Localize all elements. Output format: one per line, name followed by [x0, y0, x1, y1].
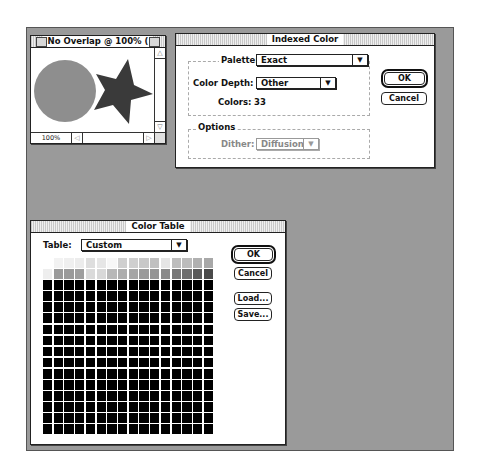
color-swatch[interactable] [182, 424, 191, 434]
color-swatch[interactable] [54, 369, 63, 379]
color-swatch[interactable] [54, 402, 63, 412]
color-swatch[interactable] [43, 402, 52, 412]
color-swatch[interactable] [161, 391, 170, 401]
color-swatch[interactable] [193, 313, 202, 323]
color-swatch[interactable] [161, 369, 170, 379]
color-swatch[interactable] [97, 380, 106, 390]
color-swatch[interactable] [129, 336, 138, 346]
color-swatch[interactable] [118, 391, 127, 401]
close-box-icon[interactable] [36, 37, 47, 47]
color-swatch[interactable] [129, 325, 138, 335]
color-swatch[interactable] [129, 258, 138, 268]
color-swatch[interactable] [64, 424, 73, 434]
color-swatch[interactable] [107, 402, 116, 412]
zoom-box-icon[interactable] [149, 37, 160, 47]
color-swatch[interactable] [129, 413, 138, 423]
color-swatch[interactable] [204, 413, 213, 423]
color-swatch[interactable] [43, 380, 52, 390]
color-swatch[interactable] [193, 391, 202, 401]
color-swatch[interactable] [161, 402, 170, 412]
color-swatch[interactable] [193, 302, 202, 312]
color-swatch[interactable] [107, 358, 116, 368]
color-swatch[interactable] [54, 291, 63, 301]
color-swatch[interactable] [129, 291, 138, 301]
color-swatch[interactable] [172, 413, 181, 423]
color-swatch[interactable] [43, 358, 52, 368]
color-swatch[interactable] [97, 313, 106, 323]
color-swatch[interactable] [75, 369, 84, 379]
color-swatch[interactable] [193, 325, 202, 335]
color-swatch[interactable] [129, 280, 138, 290]
vertical-scrollbar[interactable]: △ ▽ [154, 48, 165, 132]
color-swatch[interactable] [193, 291, 202, 301]
color-swatch[interactable] [129, 313, 138, 323]
color-swatch[interactable] [86, 313, 95, 323]
color-swatch[interactable] [43, 413, 52, 423]
color-swatch[interactable] [139, 258, 148, 268]
color-swatch[interactable] [54, 336, 63, 346]
color-swatch[interactable] [118, 280, 127, 290]
color-swatch[interactable] [161, 313, 170, 323]
color-table-titlebar[interactable]: Color Table [31, 221, 285, 233]
color-swatch[interactable] [43, 391, 52, 401]
color-swatch[interactable] [204, 280, 213, 290]
color-swatch[interactable] [75, 336, 84, 346]
color-swatch[interactable] [54, 325, 63, 335]
color-swatch[interactable] [107, 369, 116, 379]
color-swatch[interactable] [107, 258, 116, 268]
color-swatch[interactable] [86, 291, 95, 301]
color-swatch[interactable] [64, 358, 73, 368]
color-swatch[interactable] [150, 313, 159, 323]
color-swatch[interactable] [64, 336, 73, 346]
color-swatch[interactable] [150, 358, 159, 368]
color-swatch[interactable] [107, 325, 116, 335]
color-swatch[interactable] [172, 280, 181, 290]
color-swatch[interactable] [118, 269, 127, 279]
color-swatch[interactable] [75, 269, 84, 279]
color-swatch[interactable] [118, 358, 127, 368]
color-swatch[interactable] [107, 336, 116, 346]
color-swatch[interactable] [193, 424, 202, 434]
color-swatch[interactable] [75, 280, 84, 290]
scroll-down-arrow-icon[interactable]: ▽ [155, 121, 165, 132]
color-swatch[interactable] [97, 413, 106, 423]
color-swatch[interactable] [86, 325, 95, 335]
color-swatch[interactable] [172, 391, 181, 401]
color-swatch[interactable] [182, 269, 191, 279]
color-swatch[interactable] [204, 313, 213, 323]
color-swatch[interactable] [150, 325, 159, 335]
color-swatch[interactable] [118, 313, 127, 323]
color-swatch[interactable] [86, 424, 95, 434]
color-swatch[interactable] [161, 269, 170, 279]
color-swatch[interactable] [150, 369, 159, 379]
color-swatch[interactable] [182, 258, 191, 268]
color-swatch[interactable] [86, 380, 95, 390]
color-swatch[interactable] [64, 280, 73, 290]
color-swatch[interactable] [64, 380, 73, 390]
color-swatch[interactable] [193, 402, 202, 412]
document-canvas[interactable] [31, 48, 154, 132]
color-swatch[interactable] [139, 291, 148, 301]
color-swatch[interactable] [107, 413, 116, 423]
color-swatch[interactable] [97, 358, 106, 368]
horizontal-scroll-track[interactable] [83, 133, 143, 143]
color-swatch[interactable] [139, 313, 148, 323]
color-swatch[interactable] [129, 391, 138, 401]
color-swatch[interactable] [139, 424, 148, 434]
color-swatch[interactable] [182, 402, 191, 412]
horizontal-scrollbar[interactable]: 100% ◁ ▷ [31, 132, 165, 143]
color-swatch[interactable] [182, 413, 191, 423]
color-swatch[interactable] [182, 280, 191, 290]
color-swatch[interactable] [129, 302, 138, 312]
color-swatch[interactable] [172, 313, 181, 323]
color-swatch[interactable] [43, 258, 52, 268]
color-swatch[interactable] [204, 391, 213, 401]
color-swatch[interactable] [97, 391, 106, 401]
color-swatch[interactable] [139, 269, 148, 279]
color-swatch[interactable] [129, 369, 138, 379]
color-swatch[interactable] [204, 269, 213, 279]
color-swatch[interactable] [118, 325, 127, 335]
color-swatch[interactable] [161, 358, 170, 368]
color-swatch[interactable] [150, 336, 159, 346]
color-swatch[interactable] [75, 347, 84, 357]
